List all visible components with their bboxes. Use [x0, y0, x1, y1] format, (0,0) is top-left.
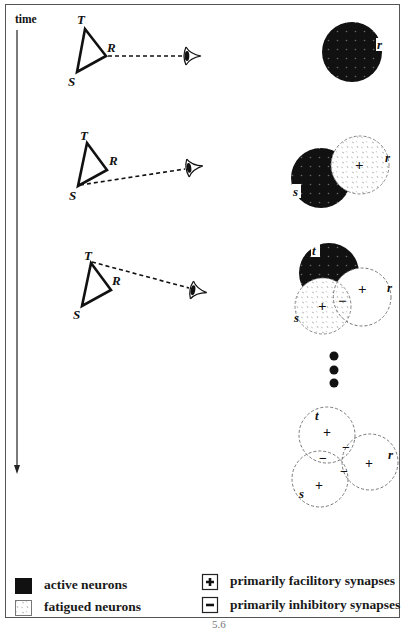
facilitory-synapse-icon: + — [355, 157, 364, 173]
active-swatch-icon — [15, 578, 32, 594]
panel-3-neurons: t r s + + − — [293, 243, 393, 334]
legend-fatigued-label: fatigued neurons — [44, 599, 141, 615]
facilitory-synapse-icon: + — [318, 298, 327, 314]
ellipsis-dots — [330, 352, 339, 388]
time-arrow — [14, 30, 20, 474]
neuron-label-r: r — [387, 280, 393, 295]
diagram-canvas: T R S r T R S s r + — [0, 0, 404, 628]
neuron-r-active — [322, 22, 382, 82]
triangle-shape — [82, 263, 111, 306]
neuron-label-t: t — [312, 243, 316, 258]
legend-active-label: active neurons — [44, 577, 127, 593]
inhibitory-synapse-icon: − — [338, 293, 347, 309]
vertex-label-S: S — [69, 188, 76, 203]
panel-2-neurons: s r + — [291, 136, 391, 208]
vertex-label-S: S — [68, 74, 75, 89]
neuron-label-r: r — [385, 150, 391, 165]
legend-facilitory-label: primarily facilitory synapses — [230, 573, 395, 589]
neuron-label-s: s — [293, 310, 299, 325]
fatigued-swatch-icon — [16, 601, 32, 616]
page-number-fragment: 5.6 — [212, 618, 226, 628]
triangle-shape — [77, 29, 106, 72]
panel-1-stimulus: T R S — [68, 12, 201, 89]
inhibitory-synapse-icon: − — [319, 451, 327, 466]
vertex-label-T: T — [77, 12, 86, 27]
facilitory-synapse-icon: + — [315, 478, 323, 493]
eye-icon — [188, 281, 208, 302]
neuron-label-s: s — [292, 184, 298, 199]
facilitory-synapse-icon: + — [323, 425, 331, 440]
facilitory-synapse-icon: + — [358, 281, 367, 297]
triangle-shape — [78, 143, 107, 186]
vertex-label-R: R — [106, 40, 116, 55]
vertex-label-T: T — [84, 248, 93, 263]
inhibitory-synapse-icon: − — [342, 440, 350, 455]
neuron-label-t: t — [315, 408, 319, 423]
vertex-label-S: S — [73, 307, 80, 322]
panel-2-stimulus: T R S — [69, 128, 204, 203]
eye-icon — [184, 47, 201, 65]
neuron-label-r: r — [388, 447, 394, 462]
panel-1-neurons: r — [322, 22, 385, 82]
vertex-label-T: T — [80, 128, 89, 143]
legend-inhibitory-label: primarily inhibitory synapses — [230, 597, 400, 613]
facilitory-synapse-icon: + — [365, 456, 373, 471]
eye-icon — [185, 157, 204, 177]
panel-4-neurons: t r s + + + − − − — [292, 407, 398, 507]
neuron-fatigue-diagram: time — [0, 0, 404, 628]
vertex-label-R: R — [111, 273, 121, 288]
panel-3-stimulus: T R S — [73, 248, 208, 322]
neuron-label-s: s — [298, 486, 304, 501]
inhibitory-synapse-icon: − — [340, 464, 348, 479]
vertex-label-R: R — [108, 153, 118, 168]
